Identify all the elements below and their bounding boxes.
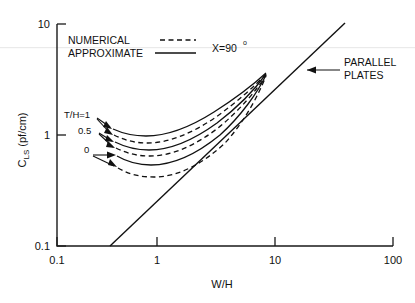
x-tick-label-10: 10	[269, 254, 281, 266]
parallel-plates-annotation: PARALLEL PLATES	[307, 56, 396, 81]
y-axis-title-unit: (pf/cm)	[16, 112, 28, 149]
y-tick-label-1: 1	[44, 129, 50, 141]
x-tick-label-1: 1	[154, 254, 160, 266]
x-tick-label-100: 100	[384, 254, 402, 266]
th-label-05: 0.5	[78, 125, 91, 136]
curve-th1-approximate	[113, 73, 266, 136]
y-tick-label-0.1: 0.1	[35, 240, 50, 252]
x-axis-ticks	[57, 237, 393, 246]
y-axis-ticks	[57, 24, 66, 246]
curve-th05-approximate	[115, 74, 266, 150]
svg-text:CLS (pf/cm): CLS (pf/cm)	[16, 112, 31, 167]
parallel-plates-label-line2: PLATES	[344, 69, 384, 81]
legend-label-approximate: APPROXIMATE	[68, 47, 143, 59]
y-axis-title: CLS (pf/cm)	[16, 112, 31, 167]
parallel-plates-line	[110, 23, 345, 246]
curve-th1-numerical	[114, 74, 266, 143]
arrowhead-th-0b	[108, 159, 117, 167]
legend-angle-label: X=90	[212, 42, 237, 54]
parallel-plates-label-line1: PARALLEL	[344, 56, 396, 68]
th-label-0: 0	[84, 144, 89, 155]
legend: NUMERICAL APPROXIMATE X=90 o	[68, 34, 247, 59]
arrowhead-th-0	[107, 152, 116, 159]
y-tick-label-10: 10	[38, 18, 50, 30]
x-tick-label-0.1: 0.1	[49, 254, 64, 266]
legend-label-numerical: NUMERICAL	[68, 34, 130, 46]
y-axis-title-main: C	[16, 160, 28, 168]
y-axis-title-sub: LS	[22, 150, 31, 160]
th-label-1: T/H=1	[64, 109, 90, 120]
chart-figure: 10 1 0.1 0.1 1 10 100 W/H CLS (pf/cm) NU…	[0, 0, 415, 303]
x-axis-title: W/H	[211, 278, 232, 290]
arrowhead-parallel-plates	[307, 67, 316, 74]
scan-artifact-line	[0, 47, 415, 48]
chart-svg: 10 1 0.1 0.1 1 10 100 W/H CLS (pf/cm) NU…	[0, 0, 415, 303]
legend-angle-degree-symbol: o	[243, 39, 247, 46]
curve-th05-numerical	[116, 75, 266, 156]
